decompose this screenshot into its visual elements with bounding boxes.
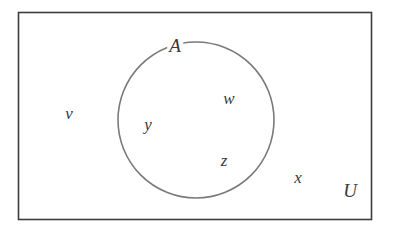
universe-label: U [341,181,359,200]
venn-canvas [0,0,394,232]
element-x: x [294,169,302,186]
element-v: v [65,105,73,122]
element-y: y [144,116,152,133]
venn-diagram: A U v w y z x [0,0,394,232]
set-a-label: A [167,36,183,55]
element-w: w [223,90,234,107]
element-z: z [221,152,228,169]
